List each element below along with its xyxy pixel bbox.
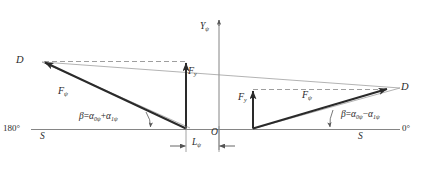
right-angle-leader bbox=[330, 110, 333, 127]
vertical-axis-label: Yψ bbox=[200, 22, 209, 33]
baseline-left-marker: S bbox=[40, 132, 45, 142]
origin-label: O bbox=[211, 128, 218, 138]
dimension-label: Lψ bbox=[192, 138, 201, 149]
right-force-label: Fψ bbox=[302, 90, 312, 101]
left-force-label: Fψ bbox=[58, 86, 68, 97]
baseline-left-angle-label: 180° bbox=[3, 124, 20, 133]
right-angle-expression: β=α0ψ−α1ψ bbox=[341, 110, 380, 121]
baseline-right-marker: S bbox=[358, 132, 363, 142]
right-vertical-force-label: Fy bbox=[238, 92, 247, 103]
left-apex-label: D bbox=[16, 55, 24, 66]
left-angle-leader bbox=[146, 112, 151, 127]
left-angle-expression: β=α0ψ+α1ψ bbox=[79, 112, 118, 123]
left-vertical-force-label: Fy bbox=[188, 66, 197, 77]
baseline-right-angle-label: 0° bbox=[402, 124, 410, 133]
figure-canvas: Yψ D D Fψ Fy Fy Fψ β=α0ψ+α1ψ β=α0ψ−α1ψ 1… bbox=[0, 0, 425, 170]
right-apex-label: D bbox=[401, 82, 409, 93]
